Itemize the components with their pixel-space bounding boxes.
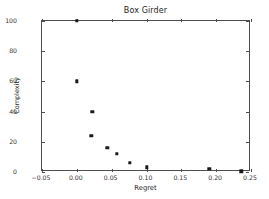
y-tick-label: 100 (5, 17, 17, 24)
y-axis-label: Complexity (11, 20, 23, 171)
y-tick (42, 172, 45, 173)
data-point (128, 161, 131, 164)
plot-area (41, 20, 250, 171)
y-tick-label: 20 (9, 137, 17, 144)
y-tick-label: 60 (9, 77, 17, 84)
y-tick-label: 80 (9, 47, 17, 54)
data-point (240, 170, 243, 173)
chart-title: Box Girder (41, 6, 250, 15)
x-tick-label: −0.05 (32, 174, 51, 181)
x-tick-label: 0.05 (104, 174, 118, 181)
y-tick-label: 40 (9, 107, 17, 114)
data-point (106, 146, 109, 149)
y-axis-label-text: Complexity (11, 20, 23, 171)
data-point (75, 80, 78, 83)
x-axis-label: Regret (41, 184, 250, 192)
data-point (207, 167, 210, 170)
y-tick-right (246, 172, 249, 173)
y-tick-label: 0 (13, 168, 17, 175)
x-tick-label: 0.15 (173, 174, 187, 181)
data-point (90, 134, 93, 137)
x-tick-label: 0.00 (69, 174, 83, 181)
chart-figure: Box Girder Complexity Regret −0.050.000.… (0, 0, 269, 199)
x-tick-label: 0.20 (208, 174, 222, 181)
x-tick-label: 0.10 (139, 174, 153, 181)
data-point (75, 19, 78, 22)
x-tick (251, 169, 252, 172)
data-point (115, 152, 118, 155)
data-point (145, 166, 148, 169)
data-point (90, 110, 93, 113)
x-tick-label: 0.25 (243, 174, 257, 181)
x-tick-top (251, 19, 252, 22)
scatter-series (42, 21, 249, 170)
